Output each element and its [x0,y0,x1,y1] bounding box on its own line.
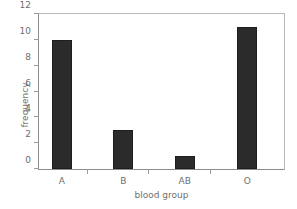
bar-b [113,130,133,169]
y-tick-label-0: 0 [25,156,31,165]
x-tick-label-ab: AB [179,176,191,186]
y-tick-4 [34,116,39,117]
y-tick-8 [34,65,39,66]
y-tick-label-12: 12 [20,1,31,10]
bar-a [52,40,72,169]
x-tick-boundary-1 [87,169,88,174]
y-tick-label-8: 8 [25,52,31,61]
y-tick-10 [34,39,39,40]
x-tick-label-a: A [59,176,65,186]
y-tick-6 [34,91,39,92]
x-tick-label-b: B [120,176,126,186]
x-tick-label-o: O [244,176,251,186]
y-tick-label-6: 6 [25,78,31,87]
y-tick-12 [34,13,39,14]
bar-o [237,27,257,169]
bar-chart: frequency 0 2 4 6 8 10 12 A B AB O blood… [0,0,297,209]
y-tick-label-2: 2 [25,130,31,139]
x-tick-boundary-3 [210,169,211,174]
bar-ab [175,156,195,169]
y-tick-2 [34,142,39,143]
y-tick-label-10: 10 [20,26,31,35]
x-tick-boundary-2 [148,169,149,174]
y-tick-0 [34,168,39,169]
y-tick-label-4: 4 [25,104,31,113]
plot-area: 0 2 4 6 8 10 12 A B AB O [38,13,285,170]
x-axis-title: blood group [38,190,285,200]
